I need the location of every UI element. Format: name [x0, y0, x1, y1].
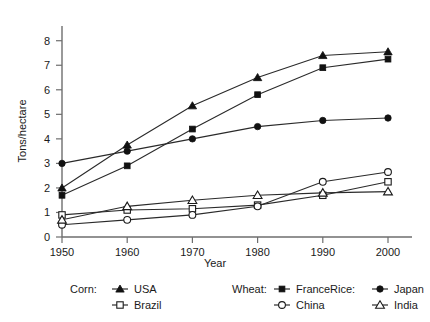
x-tick-label: 1980	[245, 246, 269, 258]
y-tick-label: 1	[44, 206, 50, 218]
data-point-japan-1990	[320, 117, 326, 123]
data-point-japan-1960	[124, 148, 130, 154]
legend-group-label: Rice:	[330, 283, 355, 295]
data-point-china-2000	[385, 169, 392, 176]
legend-marker-china	[279, 302, 286, 309]
data-point-japan-1950	[59, 160, 65, 166]
y-tick-label: 3	[44, 157, 50, 169]
chart-figure: 012345678 Tons/hectare 19501960197019801…	[0, 0, 430, 322]
data-point-france-1980	[255, 92, 261, 98]
legend-marker-brazil	[117, 302, 123, 308]
data-point-france-1990	[320, 65, 326, 71]
legend-label-usa: USA	[134, 283, 157, 295]
y-tick-label: 5	[44, 108, 50, 120]
y-tick-label: 7	[44, 59, 50, 71]
data-point-china-1960	[124, 216, 131, 223]
x-tick-label: 1950	[50, 246, 74, 258]
x-tick-label: 1960	[115, 246, 139, 258]
y-tick-label: 8	[44, 35, 50, 47]
data-point-china-1980	[254, 203, 261, 210]
data-point-japan-1970	[189, 136, 195, 142]
data-point-china-1990	[319, 178, 326, 185]
x-axis-title: Year	[204, 257, 227, 269]
data-point-france-2000	[385, 56, 391, 62]
data-point-france-1960	[124, 163, 130, 169]
x-tick-label: 2000	[376, 246, 400, 258]
x-tick-label: 1970	[180, 246, 204, 258]
legend-label-china: China	[296, 299, 326, 311]
legend-label-france: France	[296, 283, 330, 295]
legend-group-label: Wheat:	[232, 283, 267, 295]
x-tick-label: 1990	[311, 246, 335, 258]
data-point-japan-2000	[385, 115, 391, 121]
y-tick-label: 2	[44, 182, 50, 194]
data-point-china-1970	[189, 212, 196, 219]
y-axis-title: Tons/hectare	[16, 100, 28, 163]
yield-line-chart: 012345678 Tons/hectare 19501960197019801…	[0, 0, 430, 322]
data-point-japan-1980	[254, 123, 260, 129]
data-point-france-1950	[59, 192, 65, 198]
y-tick-label: 6	[44, 84, 50, 96]
legend-group-label: Corn:	[70, 283, 97, 295]
legend-label-india: India	[394, 299, 419, 311]
data-point-brazil-2000	[385, 179, 391, 185]
legend-label-brazil: Brazil	[134, 299, 162, 311]
legend-marker-japan	[377, 286, 383, 292]
legend-label-japan: Japan	[394, 283, 424, 295]
y-tick-label: 4	[44, 133, 50, 145]
y-tick-label: 0	[44, 231, 50, 243]
data-point-france-1970	[190, 126, 196, 132]
legend-marker-france	[279, 286, 285, 292]
